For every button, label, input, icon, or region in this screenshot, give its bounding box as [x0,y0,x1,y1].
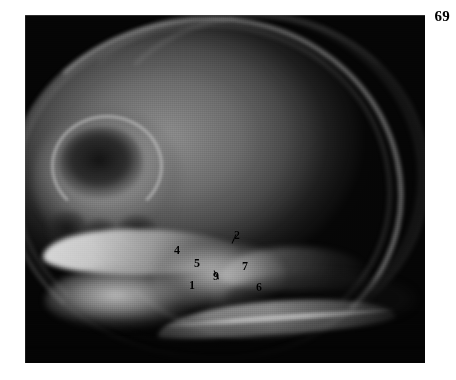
orbit-shadow [59,127,143,199]
label-4: 4 [174,244,180,256]
mandible-body [156,293,396,344]
mastoid-air-cell [47,211,87,245]
skull-base-plate [153,241,285,311]
label-7: 7 [242,260,248,272]
orbital-roof-arc [51,115,163,217]
film-grain [25,15,425,363]
label-1: 1 [189,279,195,291]
radiograph-image: 1245679 [25,15,425,363]
air-shadow [225,273,415,325]
frontal-facial-region [33,107,183,257]
figure-root: 69 1245679 [0,0,456,380]
sphenoid-petrous-band [43,229,239,275]
page-number: 69 [434,8,450,25]
mastoid-air-cell [117,215,157,245]
calvarium-outer-table [45,15,423,345]
label-6: 6 [256,281,262,293]
calvarium-inner-table [25,17,403,361]
inferior-vignette [25,315,425,363]
label-9: 9 [213,270,219,282]
label-2: 2 [234,229,240,241]
mandible-cortical-line [165,307,393,329]
cranial-vault-shadow [25,19,389,351]
plate-edge [25,15,425,363]
label-5: 5 [194,257,200,269]
mastoid-air-cell [81,219,119,251]
maxilla-zygomatic-mass [45,267,205,331]
calvarium-diploe [25,24,391,350]
occipital-arc [85,15,425,339]
